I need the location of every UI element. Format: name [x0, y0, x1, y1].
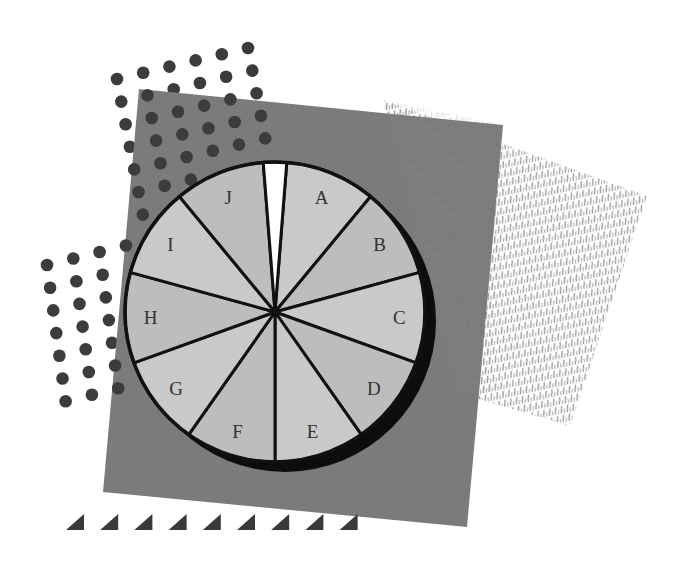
dot	[163, 60, 176, 73]
triangle	[169, 514, 187, 530]
triangle	[134, 514, 152, 530]
dot	[172, 106, 185, 119]
dot	[53, 350, 66, 363]
slice-label: I	[167, 234, 173, 255]
dot	[141, 89, 154, 102]
triangle	[340, 514, 358, 530]
dot	[111, 73, 124, 86]
dot	[83, 366, 96, 379]
dot	[50, 327, 63, 340]
dot	[216, 48, 229, 61]
slice-label: A	[315, 187, 329, 208]
dot	[96, 268, 109, 281]
dot	[67, 252, 80, 265]
dot	[198, 99, 211, 112]
dot	[109, 359, 122, 372]
dot	[259, 132, 272, 145]
dot	[103, 314, 116, 327]
triangle	[271, 514, 289, 530]
dot	[189, 54, 202, 67]
dot	[128, 163, 141, 176]
dot	[119, 118, 132, 131]
slice-label: H	[144, 307, 158, 328]
dot	[137, 208, 150, 221]
slice-label: B	[373, 234, 386, 255]
dot	[132, 186, 145, 199]
triangle	[305, 514, 323, 530]
dot	[146, 112, 159, 125]
dot	[194, 77, 207, 90]
dot	[202, 122, 215, 135]
triangle	[203, 514, 221, 530]
pie-chart: ABCDEFGHIJ	[125, 162, 425, 462]
triangle-row	[66, 514, 358, 530]
dot	[112, 382, 125, 395]
dot	[115, 95, 128, 108]
dot	[207, 145, 220, 158]
triangle	[237, 514, 255, 530]
dot	[41, 259, 54, 272]
dot	[150, 134, 163, 147]
dot	[93, 246, 106, 259]
dot	[233, 138, 246, 151]
slice-label: C	[393, 307, 406, 328]
dot	[59, 395, 72, 408]
slice-label: J	[225, 187, 232, 208]
dot	[180, 151, 193, 164]
dot-cluster-left	[41, 246, 119, 408]
dot	[86, 388, 99, 401]
slice-label: G	[169, 378, 183, 399]
slice-label: F	[232, 421, 243, 442]
dot	[137, 67, 150, 80]
dot	[228, 116, 241, 129]
triangle	[100, 514, 118, 530]
slice-label: D	[367, 378, 381, 399]
dot	[70, 275, 83, 288]
pie-chart-illustration: ABCDEFGHIJ	[0, 0, 684, 561]
dot	[246, 64, 259, 77]
dot	[176, 128, 189, 141]
dot	[56, 372, 69, 385]
dot	[255, 110, 268, 123]
dot	[154, 157, 167, 170]
dot	[73, 298, 86, 311]
dot	[158, 180, 171, 193]
dot	[100, 291, 113, 304]
dot	[250, 87, 263, 100]
dot	[220, 71, 233, 84]
dot	[76, 320, 89, 333]
dot	[47, 304, 60, 317]
dot	[44, 281, 57, 294]
dot	[79, 343, 92, 356]
dot	[242, 42, 255, 55]
triangle	[66, 514, 84, 530]
dot	[120, 239, 133, 252]
slice-label: E	[307, 421, 319, 442]
dot	[224, 93, 237, 106]
